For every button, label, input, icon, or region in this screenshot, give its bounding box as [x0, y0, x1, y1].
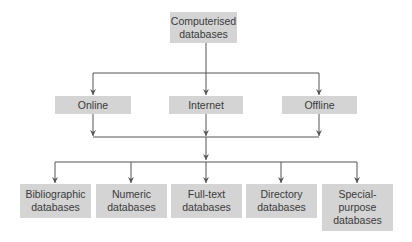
root-label-line1: Computerised — [171, 15, 236, 28]
node-online: Online — [55, 96, 131, 114]
node-label-line3: databases — [333, 214, 381, 227]
node-label-line2: databases — [182, 201, 230, 214]
node-special-purpose-databases: Special- purpose databases — [322, 184, 393, 231]
node-label-line2: purpose — [339, 201, 377, 214]
node-internet: Internet — [169, 96, 243, 114]
root-label-line2: databases — [179, 28, 227, 41]
node-offline: Offline — [282, 96, 357, 114]
node-internet-label: Internet — [188, 99, 224, 112]
node-online-label: Online — [78, 99, 108, 112]
node-offline-label: Offline — [304, 99, 334, 112]
node-label-line2: databases — [257, 201, 305, 214]
node-label-line1: Special- — [339, 188, 377, 201]
node-label-line2: databases — [31, 201, 79, 214]
node-label-line1: Full-text — [188, 188, 225, 201]
node-label-line1: Directory — [260, 188, 302, 201]
node-full-text-databases: Full-text databases — [171, 184, 242, 218]
node-numeric-databases: Numeric databases — [96, 184, 167, 218]
node-label-line2: databases — [107, 201, 155, 214]
node-bibliographic-databases: Bibliographic databases — [20, 184, 91, 218]
node-directory-databases: Directory databases — [246, 184, 317, 218]
node-label-line1: Bibliographic — [25, 188, 85, 201]
node-label-line1: Numeric — [112, 188, 151, 201]
root-node-computerised-databases: Computerised databases — [170, 12, 237, 43]
